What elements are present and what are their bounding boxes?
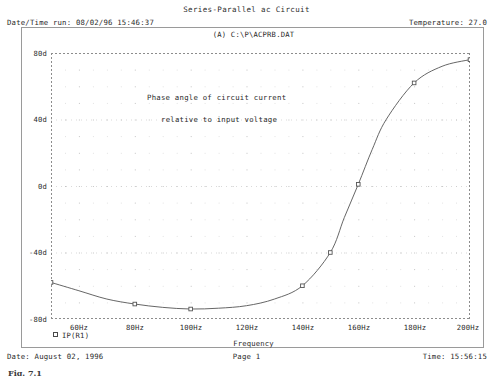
plot-area: Phase angle of circuit current relative …: [51, 53, 470, 319]
probe-plot-page: Series-Parallel ac Circuit Date/Time run…: [0, 0, 493, 376]
plot-frame: (A) C:\P\ACPRB.DAT 80d 40d 0d -40d -80d …: [21, 27, 484, 348]
data-point-marker: [468, 58, 470, 62]
legend-square-marker-icon: [53, 332, 58, 337]
temperature-label: Temperature: 27.0: [409, 18, 487, 27]
footer-page: Page 1: [0, 352, 493, 361]
y-tick-label-0d: 0d: [21, 182, 47, 191]
data-point-marker: [133, 302, 137, 306]
data-point-marker: [51, 281, 53, 285]
x-tick-label-160hz: 160Hz: [337, 323, 381, 332]
data-point-marker: [189, 307, 193, 311]
x-tick-label-140hz: 140Hz: [281, 323, 325, 332]
y-tick-label-neg80d: -80d: [21, 315, 47, 324]
annotation-line-1: Phase angle of circuit current: [147, 93, 286, 102]
x-axis-title: Frequency: [22, 339, 485, 348]
data-point-marker: [356, 183, 360, 187]
footer-time: Time: 15:56:15: [423, 352, 487, 361]
x-tick-label-200hz: 200Hz: [446, 323, 490, 332]
y-tick-label-80d: 80d: [21, 49, 47, 58]
annotation-line-2: relative to input voltage: [161, 115, 277, 124]
page-title: Series-Parallel ac Circuit: [0, 5, 493, 14]
x-tick-label-80hz: 80Hz: [113, 323, 157, 332]
footer: Date: August 02, 1996 Page 1 Time: 15:56…: [0, 352, 493, 366]
x-tick-label-100hz: 100Hz: [169, 323, 213, 332]
data-point-marker: [412, 81, 416, 85]
figure-caption: Fig. 7.1: [8, 368, 42, 376]
y-tick-label-neg40d: -40d: [21, 248, 47, 257]
run-datetime-label: Date/Time run: 08/02/96 15:46:37: [7, 18, 154, 27]
x-tick-label-180hz: 180Hz: [393, 323, 437, 332]
data-point-marker: [329, 251, 333, 255]
dataset-label: (A) C:\P\ACPRB.DAT: [22, 30, 485, 39]
data-point-marker: [301, 284, 305, 288]
y-tick-label-40d: 40d: [21, 115, 47, 124]
x-tick-label-120hz: 120Hz: [225, 323, 269, 332]
